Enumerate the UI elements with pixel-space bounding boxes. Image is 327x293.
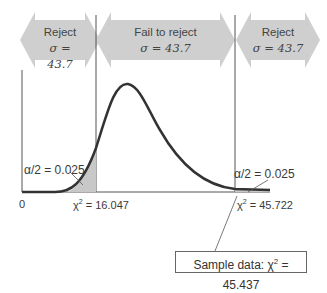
reject-left-label: Reject σ = 43.7 [35,24,85,72]
sample-data-box: Sample data: χ2 = 45.437 [175,251,307,273]
region-label: Reject [251,24,305,40]
region-label: Fail to reject [111,24,220,40]
reject-right-label: Reject σ = 43.7 [251,24,305,56]
sample-label: Sample data: χ [193,258,273,272]
alpha-left-label: α/2 = 0.025 [24,163,85,177]
sigma-label: σ = 43.7 [35,40,85,72]
right-critical-label: χ2 = 45.722 [237,198,293,211]
left-critical-label: χ2 = 16.047 [73,198,129,211]
origin-label: 0 [19,198,25,210]
sigma-label: σ = 43.7 [111,40,220,56]
critical-value: = 45.722 [247,199,293,211]
critical-value: = 16.047 [83,199,129,211]
fail-to-reject-label: Fail to reject σ = 43.7 [111,24,220,56]
alpha-right-label: α/2 = 0.025 [234,167,295,181]
region-label: Reject [35,24,85,40]
sigma-label: σ = 43.7 [251,40,305,56]
